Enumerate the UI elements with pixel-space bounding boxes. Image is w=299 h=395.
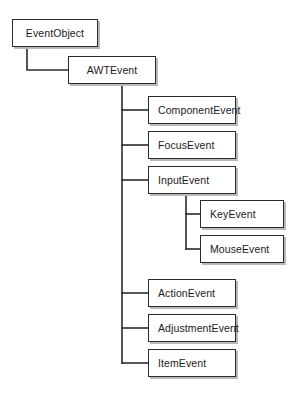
class-node-label: AdjustmentEvent — [149, 323, 239, 334]
class-node-label: KeyEvent — [201, 209, 256, 220]
class-node-label: InputEvent — [149, 175, 209, 186]
class-hierarchy-diagram: EventObjectAWTEventComponentEventFocusEv… — [0, 0, 299, 395]
class-node-focus-event[interactable]: FocusEvent — [148, 131, 236, 159]
class-node-label: ActionEvent — [149, 288, 215, 299]
class-node-label: FocusEvent — [149, 140, 214, 151]
class-node-label: AWTEvent — [69, 65, 155, 76]
class-node-label: ItemEvent — [149, 358, 206, 369]
class-node-label: MouseEvent — [201, 244, 269, 255]
class-node-item-event[interactable]: ItemEvent — [148, 349, 236, 377]
class-node-event-object[interactable]: EventObject — [12, 19, 98, 47]
class-node-label: ComponentEvent — [149, 105, 241, 116]
class-node-adjustment-event[interactable]: AdjustmentEvent — [148, 314, 236, 342]
class-node-awt-event[interactable]: AWTEvent — [68, 56, 156, 84]
class-node-component-event[interactable]: ComponentEvent — [148, 96, 236, 124]
class-node-key-event[interactable]: KeyEvent — [200, 200, 284, 228]
class-node-label: EventObject — [13, 28, 97, 39]
class-node-action-event[interactable]: ActionEvent — [148, 279, 236, 307]
class-node-input-event[interactable]: InputEvent — [148, 166, 236, 194]
connector-event-object-to-awt-event — [27, 47, 68, 70]
class-node-mouse-event[interactable]: MouseEvent — [200, 235, 284, 263]
